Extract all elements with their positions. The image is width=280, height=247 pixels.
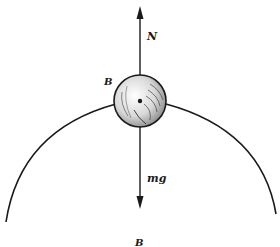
weight-label: mg <box>147 172 167 185</box>
normal-force-arrowhead-icon <box>137 6 144 19</box>
ball <box>114 75 166 127</box>
diagram-canvas: N B mg B <box>0 0 280 247</box>
weight-arrowhead-icon <box>137 196 144 209</box>
ball-center-dot <box>138 99 142 103</box>
normal-force-label: N <box>146 30 158 43</box>
ball-label: B <box>103 76 112 87</box>
bottom-label: B <box>134 237 143 247</box>
